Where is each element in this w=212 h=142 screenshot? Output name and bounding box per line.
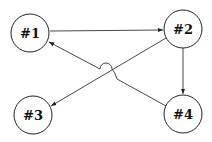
node-2: #2 bbox=[164, 10, 202, 48]
node-3: #3 bbox=[14, 96, 52, 134]
node-1-label: #1 bbox=[20, 26, 40, 41]
node-3-label: #3 bbox=[23, 108, 43, 123]
node-4-label: #4 bbox=[173, 107, 193, 122]
edge-1-to-2 bbox=[50, 30, 163, 31]
node-4: #4 bbox=[164, 95, 202, 133]
node-2-label: #2 bbox=[173, 22, 193, 37]
graph-diagram: #1 #2 #3 #4 bbox=[0, 0, 212, 142]
edge-2-to-3 bbox=[51, 38, 166, 106]
node-1: #1 bbox=[11, 14, 49, 52]
